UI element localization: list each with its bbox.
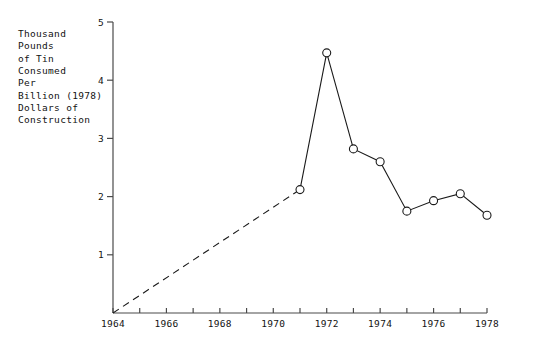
data-point-marker: [483, 211, 491, 219]
x-axis-tick-label: 1978: [475, 318, 499, 329]
data-point-marker: [456, 190, 464, 198]
chart-container: Thousand Pounds of Tin Consumed Per Bill…: [0, 0, 547, 342]
x-axis-tick-label: 1964: [101, 318, 125, 329]
x-axis-tick-label: 1974: [368, 318, 392, 329]
x-axis-tick-label: 1966: [154, 318, 178, 329]
x-axis-tick-label: 1970: [261, 318, 285, 329]
y-axis-tick-label: 1: [98, 249, 104, 260]
y-axis-tick-label: 5: [98, 17, 104, 28]
data-point-marker: [430, 197, 438, 205]
x-axis-tick-label: 1972: [315, 318, 339, 329]
data-series-line: [113, 190, 300, 313]
x-axis-tick-label: 1976: [422, 318, 446, 329]
data-point-marker: [323, 49, 331, 57]
data-point-marker: [349, 145, 357, 153]
y-axis-tick-label: 4: [98, 75, 104, 86]
y-axis-tick-label: 2: [98, 191, 104, 202]
y-axis-tick-label: 3: [98, 133, 104, 144]
data-point-marker: [403, 207, 411, 215]
chart-plot-area: 1234519641966196819701972197419761978: [0, 0, 547, 342]
data-point-marker: [296, 186, 304, 194]
data-point-marker: [376, 158, 384, 166]
x-axis-tick-label: 1968: [208, 318, 232, 329]
